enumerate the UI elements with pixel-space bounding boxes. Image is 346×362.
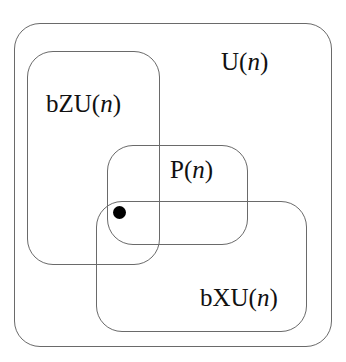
label-bZU: bZU(n) <box>46 90 121 118</box>
intersection-point-dot <box>113 206 126 219</box>
label-U: U(n) <box>221 48 268 76</box>
label-bXU: bXU(n) <box>200 284 278 312</box>
label-P: P(n) <box>170 156 213 184</box>
set-bXU <box>96 201 307 332</box>
